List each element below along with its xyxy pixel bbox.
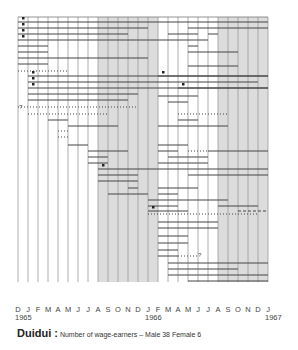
year-label: 1965 <box>15 313 32 322</box>
dot-marker-icon <box>22 35 25 38</box>
month-tick-label: F <box>36 305 41 314</box>
dot-marker-icon <box>162 71 165 74</box>
month-tick-label: A <box>55 305 60 314</box>
month-tick-label: M <box>165 305 171 314</box>
dot-marker-icon <box>32 77 35 80</box>
dot-marker-icon <box>22 17 25 20</box>
month-tick-label: J <box>76 305 80 314</box>
month-tick-label: O <box>235 305 241 314</box>
month-tick-label: N <box>245 305 250 314</box>
caption-village-name: Duidui : <box>17 327 58 339</box>
dot-marker-icon <box>32 71 35 74</box>
month-tick-label: J <box>196 305 200 314</box>
dot-marker-icon <box>32 83 35 86</box>
month-tick-label: J <box>86 305 90 314</box>
shaded-months <box>98 17 268 282</box>
month-tick-labels: DJFMAMJJASONDJFMAMJJASONDJ <box>15 305 270 314</box>
month-tick-label: S <box>225 305 230 314</box>
year-label: 1966 <box>145 313 162 322</box>
question-marker-icon: ? <box>19 104 23 110</box>
caption-text: Number of wage-earners – Male 38 Female … <box>60 331 201 338</box>
month-tick-label: A <box>95 305 100 314</box>
question-marker-icon: ? <box>198 252 202 258</box>
month-tick-label: O <box>115 305 121 314</box>
dot-marker-icon <box>152 206 155 209</box>
dot-marker-icon <box>182 83 185 86</box>
month-tick-label: A <box>215 305 220 314</box>
month-tick-label: N <box>125 305 130 314</box>
month-tick-label: D <box>135 305 141 314</box>
dot-marker-icon <box>22 23 25 26</box>
year-label: 1967 <box>265 313 282 322</box>
wage-earners-timeline-chart: ?? DJFMAMJJASONDJFMAMJJASONDJ 1965196619… <box>0 0 298 350</box>
month-tick-label: A <box>175 305 180 314</box>
dot-marker-icon <box>102 164 105 167</box>
month-tick-label: M <box>185 305 191 314</box>
month-tick-label: M <box>45 305 51 314</box>
month-tick-label: S <box>105 305 110 314</box>
dot-marker-icon <box>22 29 25 32</box>
chart-caption: Duidui : Number of wage-earners – Male 3… <box>17 327 201 339</box>
month-tick-label: D <box>255 305 261 314</box>
month-tick-label: M <box>65 305 71 314</box>
month-tick-label: J <box>206 305 210 314</box>
year-labels: 196519661967 <box>15 313 282 322</box>
shaded-period <box>218 17 268 282</box>
